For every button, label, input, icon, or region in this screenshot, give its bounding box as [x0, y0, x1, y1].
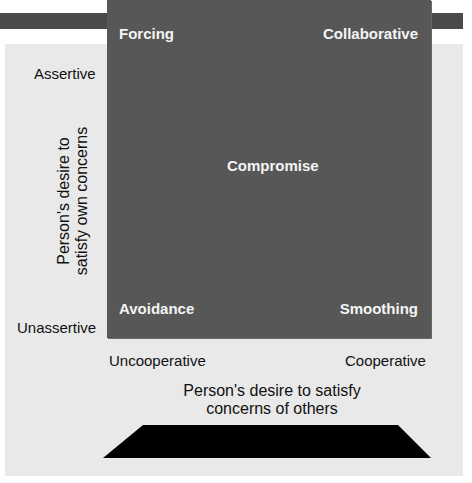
base-trapezoid — [0, 0, 472, 483]
